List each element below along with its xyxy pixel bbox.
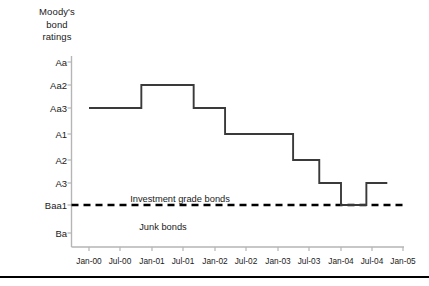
plot-area: [0, 0, 429, 286]
rating-step-line: [89, 85, 387, 205]
moodys-bond-ratings-chart: Moody's bond ratings AaAa2Aa3A1A2A3Baa1B…: [0, 0, 429, 286]
axis-lines: [72, 56, 405, 247]
footer-divider: [0, 276, 429, 278]
